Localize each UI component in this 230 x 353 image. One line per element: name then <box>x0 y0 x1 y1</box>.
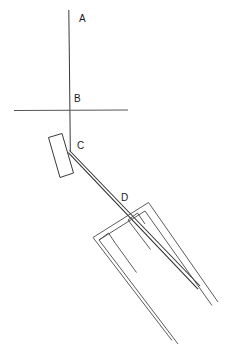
diagram-svg <box>0 0 230 353</box>
point-label-c: C <box>77 141 84 151</box>
ray-upper-edge <box>70 151 201 287</box>
vertical-incident-line <box>69 10 71 151</box>
point-label-b: B <box>74 94 81 104</box>
fork-stub-left <box>116 244 137 273</box>
fork-stub-right <box>128 220 151 250</box>
fork-notch-right <box>128 213 145 224</box>
horizontal-axis-line <box>14 110 128 111</box>
figure-canvas: A B C D <box>0 0 230 353</box>
point-label-d: D <box>121 193 128 203</box>
ray-lower-edge <box>68 153 198 290</box>
point-label-a: A <box>79 14 86 24</box>
fork-inner-contour <box>99 211 212 306</box>
fork-left-prong-outer <box>93 238 172 341</box>
